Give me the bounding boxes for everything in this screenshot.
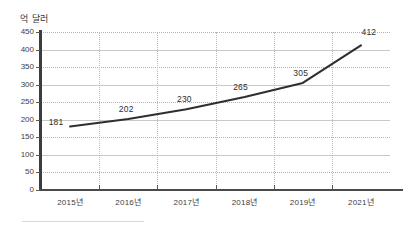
data-point-value-label: 305 — [293, 68, 308, 78]
data-point-value-label: 202 — [119, 104, 134, 114]
data-point-value-label: 412 — [362, 27, 377, 37]
scan-artifact-line — [22, 221, 144, 222]
line-chart: 억 달러 050100150200250300350400450 2015년20… — [0, 0, 417, 229]
series-line — [0, 0, 417, 229]
data-point-value-label: 181 — [49, 117, 64, 127]
data-point-value-label: 230 — [177, 94, 192, 104]
data-point-value-label: 265 — [233, 82, 248, 92]
